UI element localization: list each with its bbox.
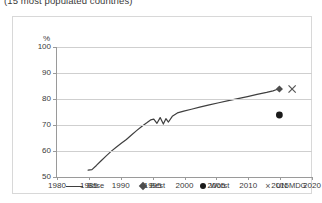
chart-title: (15 most populated countries) bbox=[4, 0, 133, 6]
gridline bbox=[57, 151, 312, 152]
x-axis-tick-mark bbox=[312, 177, 313, 180]
chart-panel: % 50607080901001980198519901995200020052… bbox=[12, 16, 312, 194]
legend-label-best: Best bbox=[150, 182, 165, 190]
y-axis-tick-label: 60 bbox=[25, 147, 51, 155]
y-axis-tick-label: 70 bbox=[25, 121, 51, 129]
line-swatch-icon bbox=[66, 186, 83, 187]
y-axis-tick-mark bbox=[53, 125, 56, 126]
gridline bbox=[57, 73, 312, 74]
series-line-base bbox=[88, 89, 279, 170]
legend-item-best[interactable]: Best bbox=[140, 180, 165, 192]
y-axis-tick-label: 90 bbox=[25, 69, 51, 77]
data-point-un-mdg bbox=[289, 85, 296, 92]
data-point-worst bbox=[276, 112, 283, 119]
legend-label-un-mdg: UN MDG bbox=[276, 182, 306, 190]
diamond-marker-icon bbox=[139, 182, 147, 190]
cross-marker-icon: × bbox=[264, 182, 272, 190]
legend-label-base: Base bbox=[87, 182, 104, 190]
data-point-best bbox=[276, 85, 283, 92]
legend-item-base[interactable]: Base bbox=[66, 180, 104, 192]
series-layer bbox=[13, 17, 322, 203]
y-axis-tick-label: 100 bbox=[25, 43, 51, 51]
y-axis-tick-mark bbox=[53, 73, 56, 74]
y-axis-tick-mark bbox=[53, 47, 56, 48]
legend-item-un-mdg[interactable]: × UN MDG bbox=[264, 180, 306, 192]
chart-figure: (15 most populated countries) % 50607080… bbox=[0, 0, 322, 203]
y-axis-tick-mark bbox=[53, 177, 56, 178]
y-axis-tick-mark bbox=[53, 99, 56, 100]
gridline bbox=[57, 125, 312, 126]
legend-label-worst: Worst bbox=[210, 182, 229, 190]
legend-item-worst[interactable]: Worst bbox=[200, 180, 229, 192]
gridline bbox=[57, 47, 312, 48]
y-axis-tick-mark bbox=[53, 151, 56, 152]
circle-marker-icon bbox=[200, 183, 206, 189]
gridline bbox=[57, 99, 312, 100]
chart-legend: Base Best Worst × UN MDG bbox=[44, 180, 300, 192]
y-axis-tick-label: 80 bbox=[25, 95, 51, 103]
